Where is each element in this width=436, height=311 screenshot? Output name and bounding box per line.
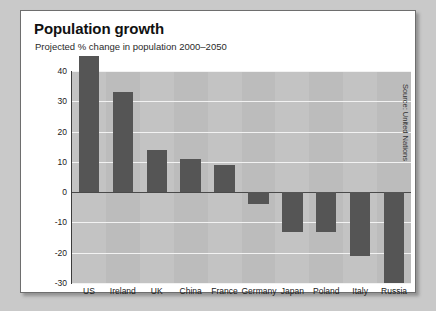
gridline xyxy=(72,71,411,72)
x-axis-tick-label: Ireland xyxy=(106,286,140,296)
chart-subtitle: Projected % change in population 2000–20… xyxy=(35,41,227,52)
x-axis-tick-label: Germany xyxy=(242,286,276,296)
y-axis-tick-label: 0 xyxy=(27,187,67,197)
y-axis-tick-label: -20 xyxy=(27,248,67,258)
x-axis-tick-label: France xyxy=(208,286,242,296)
figure-root: Population growth Projected % change in … xyxy=(0,0,436,311)
chart-card: Population growth Projected % change in … xyxy=(20,10,416,293)
bar xyxy=(214,165,234,192)
bar xyxy=(384,192,404,283)
x-axis-tick-label: China xyxy=(174,286,208,296)
bar xyxy=(316,192,336,231)
page-title: Population growth xyxy=(34,20,164,37)
source-note: Source: United Nations xyxy=(401,84,410,161)
x-axis-tick-label: Italy xyxy=(343,286,377,296)
plot-band xyxy=(309,71,343,283)
y-axis-tick-label: -30 xyxy=(27,278,67,288)
plot-band xyxy=(242,71,276,283)
y-axis-tick-label: -10 xyxy=(27,217,67,227)
bar xyxy=(180,159,200,192)
x-axis-tick-label: Poland xyxy=(309,286,343,296)
y-axis-tick-label: 10 xyxy=(27,157,67,167)
y-axis: 403020100-10-20-30 xyxy=(21,71,67,283)
x-axis-tick-label: US xyxy=(72,286,106,296)
bar xyxy=(350,192,370,256)
bar xyxy=(113,92,133,192)
y-axis-tick-label: 30 xyxy=(27,96,67,106)
y-axis-tick-label: 20 xyxy=(27,127,67,137)
x-axis-tick-label: Japan xyxy=(275,286,309,296)
bar xyxy=(147,150,167,192)
y-axis-tick-label: 40 xyxy=(27,66,67,76)
x-axis-tick-label: UK xyxy=(140,286,174,296)
plot-area xyxy=(72,71,411,283)
gridline xyxy=(72,283,411,284)
x-axis-labels: USIrelandUKChinaFranceGermanyJapanPoland… xyxy=(72,286,411,300)
x-axis-tick-label: Russia xyxy=(377,286,411,296)
bar xyxy=(79,56,99,192)
bar xyxy=(282,192,302,231)
bar xyxy=(248,192,268,204)
